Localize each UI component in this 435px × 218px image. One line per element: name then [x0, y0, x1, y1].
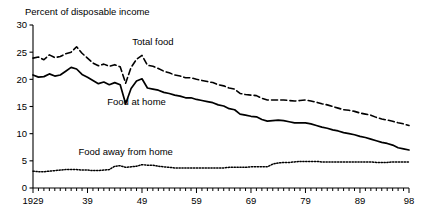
chart-axes: [33, 25, 409, 188]
x-tick-label: 59: [191, 195, 202, 206]
x-tick-label: 69: [246, 195, 257, 206]
x-tick-label: 39: [82, 195, 93, 206]
x-tick-label: 98: [404, 195, 415, 206]
series-label-food-at-home: Food at home: [107, 96, 166, 107]
x-tick-label: 79: [300, 195, 311, 206]
series-line-total-food: [33, 47, 409, 126]
y-axis-title: Percent of disposable income: [25, 6, 150, 17]
y-tick-label: 15: [16, 101, 27, 112]
x-tick-label: 1929: [22, 195, 43, 206]
y-tick-label: 30: [16, 19, 27, 30]
series-label-total-food: Total food: [132, 36, 173, 47]
y-tick-label: 10: [16, 128, 27, 139]
x-tick-label: 89: [355, 195, 366, 206]
y-tick-label: 20: [16, 74, 27, 85]
x-tick-label: 49: [137, 195, 148, 206]
chart-container: 051015202530 192939495969798998 Total fo…: [0, 0, 435, 218]
series-line-food-away-from-home: [33, 161, 409, 171]
y-tick-label: 0: [22, 182, 27, 193]
food-expenditure-line-chart: 051015202530 192939495969798998 Total fo…: [0, 0, 435, 218]
chart-series-labels: Total foodFood at homeFood away from hom…: [78, 36, 173, 157]
y-tick-label: 25: [16, 47, 27, 58]
x-axis-ticks: [33, 188, 409, 193]
y-tick-label: 5: [22, 155, 27, 166]
y-axis-tick-labels: 051015202530: [16, 19, 27, 193]
x-axis-tick-labels: 192939495969798998: [22, 195, 414, 206]
series-label-food-away-from-home: Food away from home: [78, 146, 173, 157]
series-line-food-at-home: [33, 67, 409, 150]
